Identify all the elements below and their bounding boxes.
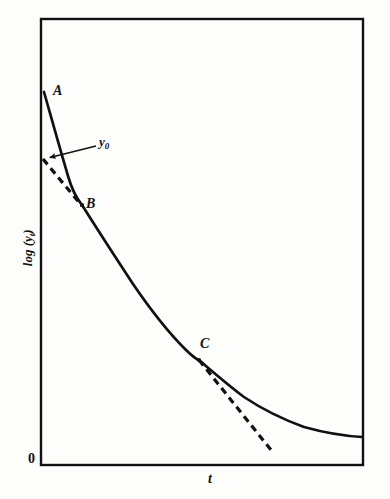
marker-point-c <box>197 358 201 362</box>
point-label-a: A <box>53 84 62 98</box>
marker-point-b <box>80 203 84 207</box>
y-axis-label-suffix: ) <box>20 229 35 233</box>
x-axis-label: t <box>208 472 212 486</box>
y-axis-label: log (yt) <box>21 210 37 286</box>
y0-leader-arrow <box>50 146 96 157</box>
solid-decay-curve <box>44 92 362 437</box>
point-label-c: C <box>200 337 209 351</box>
y-axis-label-subscript: t <box>27 234 37 237</box>
figure-container: A B C y0 0 t log (yt) <box>0 0 390 499</box>
y0-label-subscript: 0 <box>105 141 110 151</box>
y-axis-label-prefix: log (y <box>20 236 35 266</box>
point-label-b: B <box>86 197 95 211</box>
dashed-tangent-from-c <box>199 360 271 450</box>
axis-origin-label: 0 <box>28 452 35 466</box>
plot-frame <box>41 19 363 465</box>
decay-curve-plot <box>0 0 390 499</box>
y0-annotation-label: y0 <box>99 135 109 151</box>
